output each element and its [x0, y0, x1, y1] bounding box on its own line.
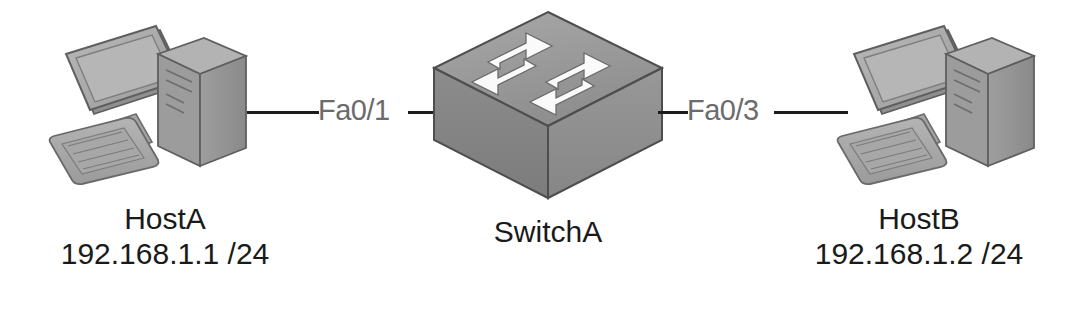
- link-a-line-left: [247, 111, 319, 114]
- host-a-name: HostA: [0, 202, 330, 237]
- host-b-computer-icon[interactable]: [828, 18, 1048, 193]
- desktop-computer-icon: [828, 18, 1048, 193]
- network-diagram-canvas: Fa0/1: [0, 0, 1084, 309]
- host-b-address: 192.168.1.2 /24: [754, 237, 1084, 272]
- desktop-computer-icon: [40, 18, 260, 193]
- host-a-caption: HostA 192.168.1.1 /24: [0, 202, 330, 272]
- switch-a-name: SwitchA: [420, 215, 676, 250]
- host-a-computer-icon[interactable]: [40, 18, 260, 193]
- host-a-address: 192.168.1.1 /24: [0, 237, 330, 272]
- switch-icon: [420, 6, 676, 206]
- link-b-label: Fa0/3: [687, 96, 759, 125]
- switch-a-icon[interactable]: [420, 6, 676, 206]
- host-b-caption: HostB 192.168.1.2 /24: [754, 202, 1084, 272]
- host-b-name: HostB: [754, 202, 1084, 237]
- link-b-line-left: [658, 111, 688, 114]
- switch-a-caption: SwitchA: [420, 215, 676, 250]
- link-a-label: Fa0/1: [318, 96, 390, 125]
